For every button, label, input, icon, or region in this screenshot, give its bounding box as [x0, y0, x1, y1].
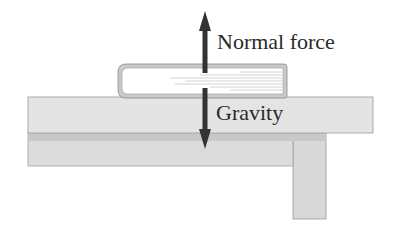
gravity-label: Gravity [216, 100, 283, 126]
diagram-canvas [0, 0, 395, 235]
table-leg [293, 133, 326, 219]
table-apron [28, 131, 326, 166]
table-top [28, 97, 373, 133]
normal-force-label: Normal force [217, 29, 335, 55]
